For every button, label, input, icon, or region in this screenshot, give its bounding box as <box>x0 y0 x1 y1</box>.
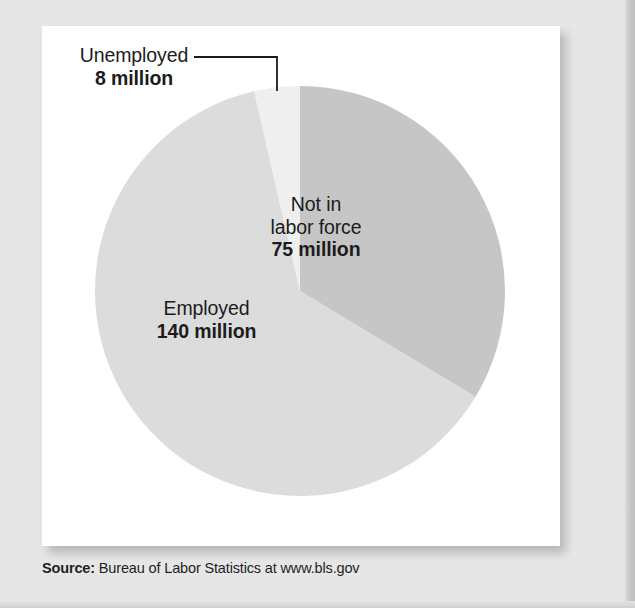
pie-label-unemployed-name: Unemployed <box>59 44 209 67</box>
pie-label-unemployed: Unemployed 8 million <box>59 44 209 89</box>
scan-edge-bottom <box>0 601 635 608</box>
page-background: Unemployed 8 million Not in labor force … <box>0 0 635 608</box>
pie-label-not-in-labor-force-line1: Not in <box>246 193 386 216</box>
pie-label-not-in-labor-force-value: 75 million <box>246 238 386 261</box>
source-label: Source: <box>42 560 95 576</box>
scan-edge-right <box>625 0 635 608</box>
pie-chart-figure: Unemployed 8 million Not in labor force … <box>42 26 560 546</box>
source-caption: Source: Bureau of Labor Statistics at ww… <box>42 560 359 576</box>
pie-label-not-in-labor-force-line2: labor force <box>246 216 386 239</box>
pie-label-employed-name: Employed <box>129 297 284 320</box>
pie-chart-svg <box>42 26 560 546</box>
source-text: Bureau of Labor Statistics at www.bls.go… <box>95 560 360 576</box>
pie-chart-card: Unemployed 8 million Not in labor force … <box>42 26 560 546</box>
pie-label-employed-value: 140 million <box>129 320 284 343</box>
pie-label-unemployed-value: 8 million <box>59 67 209 90</box>
pie-label-not-in-labor-force: Not in labor force 75 million <box>246 193 386 261</box>
pie-label-employed: Employed 140 million <box>129 297 284 342</box>
